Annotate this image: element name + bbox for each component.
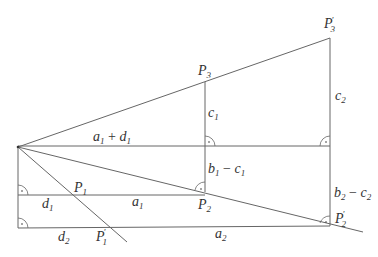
right-angle-mark-left-lower — [18, 218, 28, 228]
label-p1-prime: P′1 — [95, 227, 107, 247]
label-a1-plus-d1: a1 + d1 — [93, 129, 131, 146]
right-angle-mark-p2 — [195, 182, 205, 190]
label-d2: d2 — [58, 229, 70, 246]
geometry-diagram: P′3 P3 c1 c2 a1 + d1 b1 − c1 b2 − c2 P1 … — [0, 0, 378, 257]
label-b2-minus-c2: b2 − c2 — [334, 185, 372, 202]
label-d1: d1 — [42, 196, 54, 213]
label-c1: c1 — [208, 105, 219, 122]
ray-through-p2 — [18, 147, 363, 232]
label-p3: P3 — [197, 63, 212, 80]
ray-to-p3-prime — [18, 38, 330, 147]
label-a2: a2 — [215, 226, 227, 243]
diagram-canvas: P′3 P3 c1 c2 a1 + d1 b1 − c1 b2 − c2 P1 … — [0, 0, 378, 257]
label-b1-minus-c1: b1 − c1 — [208, 161, 245, 178]
label-p2: P2 — [197, 197, 212, 214]
right-angle-mark-mid-upper — [205, 136, 215, 146]
origin-point — [17, 146, 20, 149]
right-angle-mark-left-upper — [18, 185, 28, 195]
label-a1: a1 — [132, 194, 144, 211]
horizontal-d2-a2 — [18, 226, 330, 228]
label-c2: c2 — [335, 88, 346, 105]
label-p1: P1 — [73, 180, 87, 197]
right-angle-mark-right-upper — [320, 136, 330, 146]
label-p3-prime: P′3 — [323, 15, 336, 34]
